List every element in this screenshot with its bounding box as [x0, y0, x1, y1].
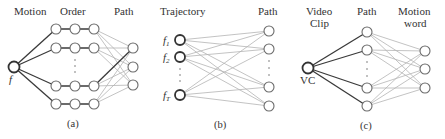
label-video: Video	[306, 5, 333, 17]
motion-node-f	[9, 62, 20, 73]
ellipsis-dots-b-left	[179, 68, 180, 81]
network-diagram-figure: Motion Order Path	[0, 0, 445, 139]
edges-order-to-path	[94, 29, 133, 104]
panel-b: Trajectory Path f1 f2 fT	[160, 5, 278, 131]
edges-trajectory-to-path	[180, 31, 269, 106]
ellipsis-dots-c	[366, 61, 367, 76]
caption-b: (b)	[214, 119, 227, 131]
ellipsis-dots-b-right	[268, 60, 269, 75]
panel-c: Video Clip Path Motion word VC	[300, 5, 431, 132]
label-f1: f1	[163, 34, 170, 48]
label-f2: f2	[163, 51, 170, 65]
label-order: Order	[60, 5, 86, 17]
caption-c: (c)	[360, 120, 372, 132]
label-clip: Clip	[310, 17, 329, 29]
motion-word-nodes	[420, 46, 430, 93]
ellipsis-dots-a	[74, 59, 75, 72]
label-fT: fT	[163, 89, 171, 103]
edges-path-to-motionword	[367, 32, 425, 106]
label-motion-c: Motion	[398, 5, 431, 17]
label-path-a: Path	[114, 5, 134, 17]
path-nodes-a	[128, 43, 138, 90]
label-motion: Motion	[14, 5, 47, 17]
edges-vc-to-path	[308, 32, 367, 106]
panel-a: Motion Order Path	[9, 5, 139, 130]
label-vc: VC	[300, 74, 315, 86]
label-word: word	[404, 17, 427, 29]
label-trajectory: Trajectory	[160, 5, 206, 17]
caption-a: (a)	[67, 118, 79, 130]
video-clip-node	[303, 63, 314, 74]
label-path-c: Path	[357, 5, 377, 17]
label-f: f	[9, 73, 14, 85]
label-path-b: Path	[258, 5, 278, 17]
edges-motion-to-order	[14, 29, 94, 104]
trajectory-nodes	[175, 35, 185, 100]
